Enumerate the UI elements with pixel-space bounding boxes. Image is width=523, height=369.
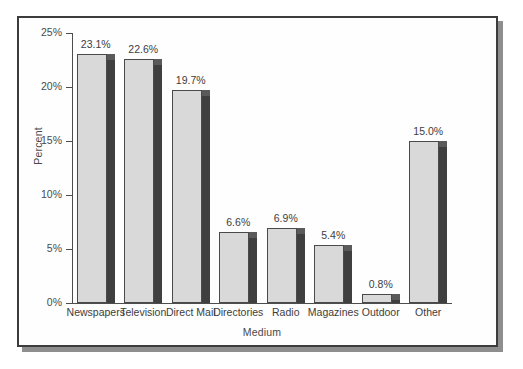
y-axis-tick bbox=[66, 195, 72, 196]
bar-side-face bbox=[344, 251, 352, 303]
bar-side-face bbox=[249, 238, 257, 303]
bar-value-label: 6.9% bbox=[256, 213, 316, 224]
x-axis-title: Medium bbox=[72, 326, 452, 338]
bar-front-face[interactable] bbox=[77, 54, 107, 303]
y-axis-tick bbox=[66, 33, 72, 34]
y-axis-tick-label: 10% bbox=[10, 189, 62, 200]
bar-value-label: 5.4% bbox=[303, 230, 363, 241]
y-axis-tick-label: 20% bbox=[10, 81, 62, 92]
y-axis-tick bbox=[66, 303, 72, 304]
bar-side-face bbox=[297, 234, 305, 303]
bar-top-bevel bbox=[439, 141, 447, 147]
y-axis-tick bbox=[66, 141, 72, 142]
bar-top-bevel bbox=[107, 54, 115, 60]
y-axis-tick-label: 0% bbox=[10, 297, 62, 308]
bar-front-face[interactable] bbox=[314, 245, 344, 303]
bar-front-face[interactable] bbox=[172, 90, 202, 303]
bar-value-label: 0.8% bbox=[351, 279, 411, 290]
bar-value-label: 19.7% bbox=[161, 75, 221, 86]
bar-value-label: 15.0% bbox=[398, 126, 458, 137]
bar-side-face bbox=[202, 96, 210, 303]
bar-side-face bbox=[392, 300, 400, 303]
bar-front-face[interactable] bbox=[362, 294, 392, 303]
bar-top-bevel bbox=[392, 294, 400, 300]
y-axis-tick bbox=[66, 87, 72, 88]
y-axis-tick bbox=[66, 249, 72, 250]
x-axis-line bbox=[72, 303, 452, 304]
bar-top-bevel bbox=[344, 245, 352, 251]
bar-front-face[interactable] bbox=[409, 141, 439, 303]
bar-top-bevel bbox=[154, 59, 162, 65]
y-axis-tick-label: 25% bbox=[10, 27, 62, 38]
y-axis-title: Percent bbox=[32, 106, 44, 186]
bar-side-face bbox=[107, 60, 115, 303]
bar-side-face bbox=[154, 65, 162, 303]
bar-top-bevel bbox=[249, 232, 257, 238]
plot-area: 0%5%10%15%20%25% Percent 23.1%22.6%19.7%… bbox=[0, 0, 523, 369]
bar-value-label: 22.6% bbox=[113, 44, 173, 55]
bar-side-face bbox=[439, 147, 447, 303]
bar-front-face[interactable] bbox=[267, 228, 297, 303]
x-axis-category-label: Other bbox=[388, 307, 468, 318]
bar-front-face[interactable] bbox=[219, 232, 249, 303]
y-axis-tick-label: 5% bbox=[10, 243, 62, 254]
bar-front-face[interactable] bbox=[124, 59, 154, 303]
y-axis-line bbox=[72, 33, 73, 304]
bar-top-bevel bbox=[202, 90, 210, 96]
chart-page: 0%5%10%15%20%25% Percent 23.1%22.6%19.7%… bbox=[0, 0, 523, 369]
